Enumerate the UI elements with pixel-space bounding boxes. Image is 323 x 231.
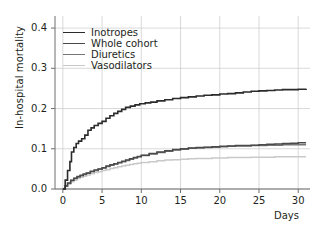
legend-label-whole-cohort: Whole cohort xyxy=(91,38,158,49)
legend-label-vasodilators: Vasodilators xyxy=(91,60,152,71)
figure: In-hospital mortality Days 0.00.10.20.30… xyxy=(0,0,323,231)
y-tick-label: 0.3 xyxy=(21,62,47,73)
x-tick-label: 5 xyxy=(91,195,113,206)
x-tick-label: 30 xyxy=(287,195,309,206)
legend-label-inotropes: Inotropes xyxy=(91,27,138,38)
series-line-vasodilators xyxy=(63,157,306,189)
x-tick-label: 15 xyxy=(170,195,192,206)
x-tick-label: 25 xyxy=(248,195,270,206)
y-tick-label: 0.2 xyxy=(21,103,47,114)
series-line-diuretics xyxy=(63,145,306,189)
legend-swatch-diuretics xyxy=(63,54,85,55)
legend-item-vasodilators: Vasodilators xyxy=(63,60,158,71)
y-tick-label: 0.1 xyxy=(21,143,47,154)
y-tick-label: 0.0 xyxy=(21,183,47,194)
legend: Inotropes Whole cohort Diuretics Vasodil… xyxy=(63,27,158,71)
legend-swatch-whole-cohort xyxy=(63,43,85,44)
series-line-inotropes xyxy=(63,89,306,189)
plot-canvas xyxy=(0,0,323,231)
legend-item-whole-cohort: Whole cohort xyxy=(63,38,158,49)
x-axis-label: Days xyxy=(274,210,299,221)
y-tick-label: 0.4 xyxy=(21,22,47,33)
x-tick-label: 10 xyxy=(130,195,152,206)
legend-swatch-inotropes xyxy=(63,32,85,33)
x-tick-label: 20 xyxy=(209,195,231,206)
legend-label-diuretics: Diuretics xyxy=(91,49,135,60)
legend-item-diuretics: Diuretics xyxy=(63,49,158,60)
legend-item-inotropes: Inotropes xyxy=(63,27,158,38)
legend-swatch-vasodilators xyxy=(63,65,85,66)
x-tick-label: 0 xyxy=(52,195,74,206)
